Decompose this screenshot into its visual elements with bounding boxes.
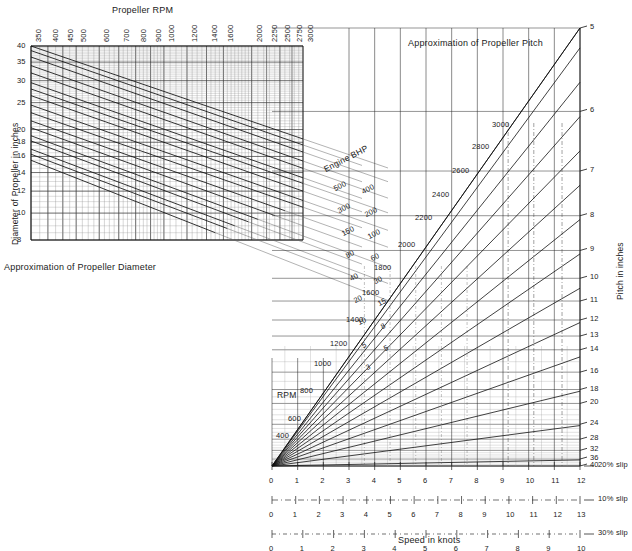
slip-2-tick-9: 9 xyxy=(546,544,550,551)
left-diameter-tick-25: 25 xyxy=(17,98,26,107)
slip-2-tick-0: 0 xyxy=(269,544,273,551)
right-chart-title: Approximation of Propeller Pitch xyxy=(408,38,543,48)
slip-0-tick-10: 10 xyxy=(526,476,535,485)
right-rpm-label-2600: 2600 xyxy=(452,166,470,175)
rpm-family-label: RPM xyxy=(277,390,297,400)
slip-2-tick-2: 2 xyxy=(331,544,335,551)
pitch-tick-8: 8 xyxy=(590,210,594,219)
left-chart-title: Approximation of Propeller Diameter xyxy=(4,262,156,272)
slip-1-tick-7: 7 xyxy=(435,510,439,519)
pitch-tick-9: 9 xyxy=(590,244,594,253)
slip-0-tick-5: 5 xyxy=(397,476,401,485)
left-diameter-tick-12: 12 xyxy=(17,186,26,195)
chart-graphics xyxy=(0,0,632,551)
left-diameter-tick-18: 18 xyxy=(17,137,26,146)
slip-0-tick-3: 3 xyxy=(346,476,350,485)
pitch-tick-18: 18 xyxy=(590,384,599,393)
right-rpm-label-1800: 1800 xyxy=(374,263,392,272)
slip-2-tick-8: 8 xyxy=(515,544,519,551)
slip-0-tick-2: 2 xyxy=(320,476,324,485)
slip-0-tick-8: 8 xyxy=(474,476,478,485)
left-rpm-tick-600: 600 xyxy=(102,29,111,42)
right-rpm-label-1000: 1000 xyxy=(314,359,332,368)
slip-0-tick-1: 1 xyxy=(295,476,299,485)
left-rpm-tick-3000: 3000 xyxy=(306,25,315,43)
left-diameter-tick-35: 35 xyxy=(17,57,26,66)
slip-0-tick-6: 6 xyxy=(423,476,427,485)
slip-1-tick-2: 2 xyxy=(316,510,320,519)
left-rpm-tick-1400: 1400 xyxy=(210,25,219,43)
left-diameter-tick-14: 14 xyxy=(17,168,26,177)
right-rpm-label-600: 600 xyxy=(288,414,301,423)
pitch-tick-20: 20 xyxy=(590,397,599,406)
left-diameter-tick-40: 40 xyxy=(17,41,26,50)
pitch-tick-7: 7 xyxy=(590,165,594,174)
pitch-tick-14: 14 xyxy=(590,344,599,353)
left-chart-top-axis-label: Propeller RPM xyxy=(112,5,173,15)
pitch-tick-5: 5 xyxy=(590,22,594,31)
right-rpm-label-1400: 1400 xyxy=(346,315,364,324)
slip-1-tick-10: 10 xyxy=(506,510,515,519)
slip-2-tick-10: 10 xyxy=(577,544,586,551)
slip-1-tick-8: 8 xyxy=(459,510,463,519)
right-rpm-label-2400: 2400 xyxy=(432,190,450,199)
pitch-tick-13: 13 xyxy=(590,330,599,339)
left-rpm-tick-2750: 2750 xyxy=(295,25,304,43)
slip-2-tick-4: 4 xyxy=(392,544,396,551)
slip-1-tick-4: 4 xyxy=(364,510,368,519)
left-diameter-tick-8: 8 xyxy=(17,235,21,244)
left-rpm-tick-400: 400 xyxy=(51,29,60,42)
right-rpm-label-800: 800 xyxy=(300,386,313,395)
left-rpm-tick-2250: 2250 xyxy=(270,25,279,43)
nomogram-figure: Propeller RPM Diameter of Propeller in i… xyxy=(0,0,632,551)
pitch-tick-24: 24 xyxy=(590,418,599,427)
slip-0-tick-11: 11 xyxy=(551,476,559,485)
slip-1-tick-9: 9 xyxy=(482,510,486,519)
right-rpm-label-1600: 1600 xyxy=(362,288,380,297)
slip-scale-label-1: 10% slip xyxy=(598,494,628,503)
right-rpm-label-3000: 3000 xyxy=(492,120,510,129)
slip-1-tick-13: 13 xyxy=(577,510,586,519)
left-rpm-tick-2500: 2500 xyxy=(283,25,292,43)
pitch-tick-16: 16 xyxy=(590,366,599,375)
slip-0-tick-0: 0 xyxy=(269,476,273,485)
left-diameter-tick-10: 10 xyxy=(17,208,26,217)
left-rpm-tick-800: 800 xyxy=(139,29,148,42)
left-rpm-tick-500: 500 xyxy=(79,29,88,42)
left-rpm-tick-2000: 2000 xyxy=(255,25,264,43)
left-rpm-tick-1000: 1000 xyxy=(167,25,176,43)
pitch-tick-6: 6 xyxy=(590,105,594,114)
left-rpm-tick-450: 450 xyxy=(66,29,75,42)
right-chart-pitch-axis-label: Pitch in inches xyxy=(615,242,625,300)
left-diameter-tick-30: 30 xyxy=(17,76,26,85)
slip-1-tick-0: 0 xyxy=(269,510,273,519)
slip-scale-label-0: 20% slip xyxy=(598,460,628,469)
slip-1-tick-11: 11 xyxy=(530,510,538,519)
slip-2-tick-1: 1 xyxy=(300,544,304,551)
left-rpm-tick-350: 350 xyxy=(34,29,43,42)
slip-1-tick-1: 1 xyxy=(293,510,297,519)
pitch-tick-10: 10 xyxy=(590,272,599,281)
slip-1-tick-6: 6 xyxy=(411,510,415,519)
right-rpm-label-1200: 1200 xyxy=(330,339,348,348)
right-rpm-label-2000: 2000 xyxy=(398,240,416,249)
left-rpm-tick-900: 900 xyxy=(154,29,163,42)
pitch-tick-11: 11 xyxy=(590,295,598,304)
slip-2-tick-7: 7 xyxy=(485,544,489,551)
right-rpm-label-2200: 2200 xyxy=(415,213,433,222)
right-rpm-label-2800: 2800 xyxy=(472,142,490,151)
right-chart-speed-axis-label: Speed in knots xyxy=(398,535,460,545)
left-rpm-tick-700: 700 xyxy=(122,29,131,42)
slip-1-tick-12: 12 xyxy=(553,510,562,519)
slip-0-tick-9: 9 xyxy=(500,476,504,485)
slip-0-tick-12: 12 xyxy=(577,476,586,485)
slip-1-tick-3: 3 xyxy=(340,510,344,519)
left-rpm-tick-1600: 1600 xyxy=(226,25,235,43)
pitch-tick-28: 28 xyxy=(590,433,599,442)
left-rpm-tick-1200: 1200 xyxy=(190,25,199,43)
slip-2-tick-5: 5 xyxy=(423,544,427,551)
slip-1-tick-5: 5 xyxy=(387,510,391,519)
right-rpm-label-400: 400 xyxy=(276,431,289,440)
left-diameter-tick-20: 20 xyxy=(17,125,26,134)
slip-0-tick-7: 7 xyxy=(449,476,453,485)
